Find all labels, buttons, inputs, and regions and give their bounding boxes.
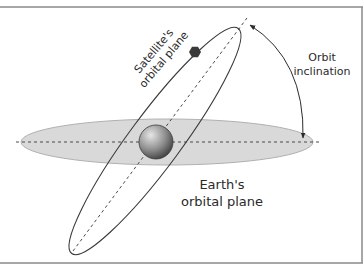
diagram-canvas: Satellite's orbital plane Orbit inclinat… bbox=[0, 0, 364, 269]
svg-text:inclination: inclination bbox=[294, 65, 351, 78]
inclination-label: Orbit inclination bbox=[294, 51, 351, 78]
satellite-plane-label: Satellite's orbital plane bbox=[127, 20, 192, 90]
inclination-arrow bbox=[250, 25, 303, 138]
svg-text:Earth's: Earth's bbox=[199, 177, 244, 192]
earth-sphere-icon bbox=[139, 125, 173, 159]
svg-text:Orbit: Orbit bbox=[308, 51, 336, 64]
earth-plane-label: Earth's orbital plane bbox=[181, 177, 263, 209]
svg-text:orbital plane: orbital plane bbox=[181, 194, 263, 209]
orbit-diagram: Satellite's orbital plane Orbit inclinat… bbox=[0, 0, 364, 269]
satellite-icon bbox=[189, 47, 201, 57]
